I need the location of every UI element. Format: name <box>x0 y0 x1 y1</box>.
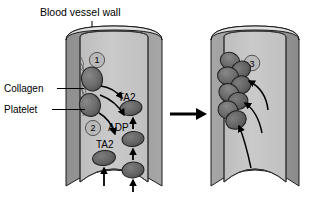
platelet-plug-formation-diagram: Blood vessel wall <box>0 0 315 215</box>
txa2-lower-label: TA2 <box>96 139 114 150</box>
step-marker-2-label: 2 <box>90 123 95 133</box>
txa2-upper-label: TA2 <box>118 92 136 103</box>
step-marker-1-label: 1 <box>94 55 99 65</box>
aggregation-panel: 3 <box>211 26 299 186</box>
collagen-label: Collagen <box>4 83 43 94</box>
step-marker-1: 1 <box>89 52 104 67</box>
figure-canvas: Blood vessel wall <box>0 0 315 215</box>
transition-arrow <box>170 108 207 120</box>
figure-title: Blood vessel wall <box>40 6 121 18</box>
adp-label: ADP <box>108 122 129 133</box>
platelet-label: Platelet <box>4 104 38 115</box>
step-marker-2: 2 <box>85 120 100 135</box>
